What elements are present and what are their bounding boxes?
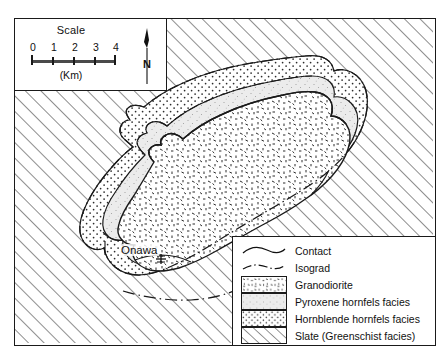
scale-tick-label-1: 1 [51, 41, 57, 53]
scale-title: Scale [15, 24, 127, 36]
scale-unit-label: (Km) [15, 69, 127, 81]
legend-label-contact: Contact [295, 245, 331, 257]
legend-label-isograd: Isograd [295, 262, 330, 274]
legend-symbol-contact [233, 242, 295, 259]
legend-symbol-slate [233, 327, 295, 344]
legend-symbol-hornblende [233, 310, 295, 327]
legend-symbol-granodiorite [233, 276, 295, 293]
onawa-label: Onawa [119, 244, 159, 256]
legend-symbol-isograd [233, 259, 295, 276]
scale-tick-label-2: 2 [72, 41, 78, 53]
legend-label-slate: Slate (Greenschist facies) [295, 330, 415, 342]
map-frame: Onawa Scale 0 1 2 3 4 (Km) N [14, 18, 436, 346]
legend-panel: Contact Isograd Granodiorite [232, 236, 436, 346]
north-arrow-icon: N [135, 26, 159, 86]
legend-label-hornblende: Hornblende hornfels facies [295, 313, 420, 325]
scale-tick-2 [73, 57, 75, 65]
geologic-map-figure: Onawa Scale 0 1 2 3 4 (Km) N [0, 0, 447, 357]
scale-tick-1 [52, 57, 54, 65]
legend-row-granodiorite: Granodiorite [233, 276, 435, 293]
scale-tick-label-3: 3 [93, 41, 99, 53]
legend-label-pyroxene: Pyroxene hornfels facies [295, 296, 410, 308]
legend-label-granodiorite: Granodiorite [295, 279, 353, 291]
legend-symbol-pyroxene [233, 293, 295, 310]
north-label: N [135, 58, 159, 70]
legend-row-contact: Contact [233, 242, 435, 259]
scale-tick-4 [114, 55, 116, 65]
scale-tick-label-0: 0 [30, 41, 36, 53]
legend-row-slate: Slate (Greenschist facies) [233, 327, 435, 344]
scale-tick-3 [94, 57, 96, 65]
legend-row-pyroxene: Pyroxene hornfels facies [233, 293, 435, 310]
scale-inset-panel: Scale 0 1 2 3 4 (Km) N [15, 19, 167, 91]
legend-row-isograd: Isograd [233, 259, 435, 276]
legend-row-hornblende: Hornblende hornfels facies [233, 310, 435, 327]
scale-tick-label-4: 4 [113, 41, 119, 53]
scale-tick-0 [31, 55, 33, 65]
